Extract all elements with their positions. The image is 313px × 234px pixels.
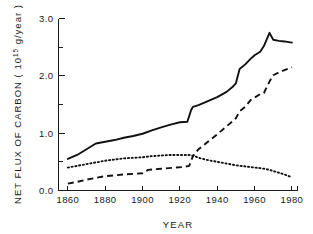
axes	[59, 19, 298, 191]
x-axis-tick-labels: 1860188019001920194019601980	[56, 194, 303, 205]
x-axis-title: YEAR	[163, 219, 193, 230]
y-axis-title-prefix: NET FLUX OF CARBON ( 10	[12, 57, 23, 204]
y-tick-label: 3.0	[39, 13, 53, 24]
series-line-dotted	[68, 155, 292, 177]
y-tick-label: 0.0	[39, 185, 53, 196]
x-tick-label: 1900	[131, 194, 154, 205]
x-tick-label: 1960	[243, 194, 266, 205]
y-tick-label: 2.0	[39, 70, 53, 81]
y-axis-title: NET FLUX OF CARBON ( 1015 g/year )	[12, 4, 23, 204]
y-axis-title-suffix: g/year )	[12, 4, 23, 48]
x-tick-label: 1920	[169, 194, 192, 205]
x-tick-label: 1980	[281, 194, 304, 205]
y-axis-tick-labels: 0.01.02.03.0	[39, 13, 53, 196]
x-tick-label: 1860	[56, 194, 79, 205]
axis-lines	[59, 19, 298, 191]
x-tick-label: 1880	[94, 194, 117, 205]
x-tick-label: 1940	[206, 194, 229, 205]
y-axis-tick-marks	[59, 19, 65, 191]
chart-figure: 1860188019001920194019601980 0.01.02.03.…	[0, 0, 313, 234]
net-carbon-flux-line-chart: 1860188019001920194019601980 0.01.02.03.…	[0, 0, 313, 234]
x-axis-tick-marks	[68, 186, 292, 191]
svg-text:NET FLUX OF CARBON ( 1015 g/ye: NET FLUX OF CARBON ( 1015 g/year )	[12, 4, 23, 204]
series-line-dashed	[68, 67, 292, 183]
y-tick-label: 1.0	[39, 128, 53, 139]
y-axis-title-exponent: 15	[12, 48, 19, 57]
data-series-group	[68, 33, 292, 184]
